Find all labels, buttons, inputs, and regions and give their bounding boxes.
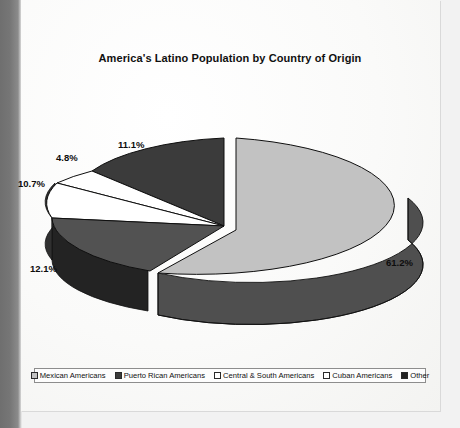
pct-label-mexican-americans: 61.2% <box>386 257 413 268</box>
pie-chart: 11.1% 4.8% 10.7% 12.1% 61.2% <box>30 121 430 336</box>
legend-swatch-icon-cuban-americans <box>323 372 330 379</box>
legend-label-cuban-americans: Cuban Americans <box>332 372 392 380</box>
legend-item-cuban-americans[interactable]: Cuban Americans <box>323 372 392 380</box>
legend-item-puerto-rican-americans[interactable]: Puerto Rican Americans <box>115 372 205 380</box>
chart-container: America's Latino Population by Country o… <box>30 11 430 401</box>
legend-item-central-south-americans[interactable]: Central & South Americans <box>214 372 314 380</box>
legend-label-other: Other <box>410 372 429 380</box>
legend-label-puerto-rican-americans: Puerto Rican Americans <box>124 372 205 380</box>
chart-legend: Mexican Americans Puerto Rican Americans… <box>34 368 426 383</box>
pct-label-central-south-americans: 10.7% <box>18 178 45 189</box>
legend-item-other[interactable]: Other <box>401 372 429 380</box>
document-page: America's Latino Population by Country o… <box>21 0 440 411</box>
pct-label-puerto-rican-americans: 12.1% <box>30 263 57 274</box>
legend-swatch-icon-mexican-americans <box>31 372 38 379</box>
pie-chart-svg <box>30 121 430 336</box>
pct-label-other: 11.1% <box>118 139 144 150</box>
page-background: America's Latino Population by Country o… <box>0 0 460 428</box>
legend-item-mexican-americans[interactable]: Mexican Americans <box>31 372 106 380</box>
legend-swatch-icon-central-south-americans <box>214 372 221 379</box>
legend-label-mexican-americans: Mexican Americans <box>40 372 106 380</box>
chart-title: America's Latino Population by Country o… <box>30 52 430 64</box>
legend-swatch-icon-other <box>401 372 408 379</box>
legend-label-central-south-americans: Central & South Americans <box>223 372 314 380</box>
legend-swatch-icon-puerto-rican-americans <box>115 372 122 379</box>
pct-label-cuban-americans: 4.8% <box>56 152 78 163</box>
page-surface: America's Latino Population by Country o… <box>21 0 440 411</box>
